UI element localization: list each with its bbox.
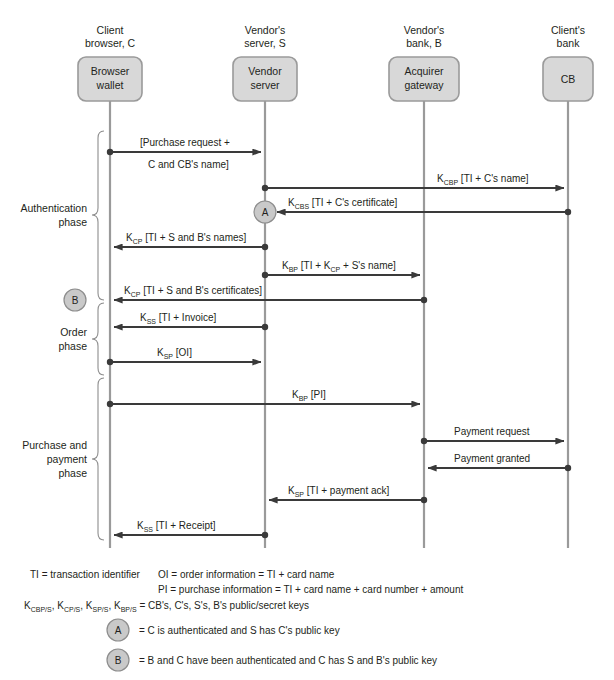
message-m7: KSS [TI + Invoice]	[114, 312, 268, 330]
message-m4: KCP [TI + S and B's names]	[114, 232, 268, 250]
actor-box-label-line2: wallet	[96, 79, 124, 91]
actor-header-line2: bank, B	[406, 37, 442, 49]
message-label: KCP [TI + S and B's certificates]	[124, 285, 262, 298]
message-label: KCP [TI + S and B's names]	[126, 232, 247, 245]
message-label: KBP [PI]	[292, 389, 326, 402]
sequence-diagram: Client browser, C Browser wallet Vendor'…	[0, 0, 614, 680]
message-label: KSS [TI + Receipt]	[137, 520, 216, 533]
actor-header-line1: Vendor's	[245, 24, 286, 36]
actor-box-label-line2: gateway	[404, 79, 444, 91]
actor-box-label-line1: Vendor	[248, 65, 282, 77]
phase-brace	[92, 131, 104, 300]
message-m13: KSS [TI + Receipt]	[114, 520, 268, 538]
message-label: KSS [TI + Invoice]	[140, 312, 217, 325]
message-m6: KCP [TI + S and B's certificates]	[114, 285, 427, 303]
legend-marker-a-letter: A	[115, 625, 122, 636]
message-label: KSP [OI]	[157, 347, 192, 360]
message-label: KBP [TI + KCP + S's name]	[282, 260, 396, 273]
legend-marker-a-row: A = C is authenticated and S has C's pub…	[107, 619, 340, 641]
message-label: Payment granted	[454, 453, 530, 464]
state-marker-letter: B	[72, 295, 79, 306]
message-m8: KSP [OI]	[107, 347, 261, 365]
phase-authentication: Authentication phase	[20, 131, 104, 300]
message-m12: KSP [TI + payment ack]	[269, 485, 427, 503]
phase-order: Order phase	[58, 303, 104, 375]
message-label-below: C and CB's name]	[148, 159, 229, 170]
actor-header-line1: Client	[97, 24, 124, 36]
phase-brace	[92, 378, 104, 540]
message-label: KCBS [TI + C's certificate]	[288, 197, 398, 210]
message-label: KSP [TI + payment ack]	[288, 485, 390, 498]
actor-box-label-line2: server	[250, 79, 280, 91]
message-label: Payment request	[454, 426, 530, 437]
message-m11: Payment granted	[428, 453, 571, 471]
legend-marker-b-row: B = B and C have been authenticated and …	[107, 649, 437, 671]
phase-label-line2: payment	[47, 453, 87, 465]
phase-label-line1: Order	[60, 326, 87, 338]
actor-client: Client browser, C Browser wallet	[78, 24, 142, 548]
actor-header-line2: browser, C	[85, 37, 136, 49]
message-m2: KCBP [TI + C's name]	[262, 173, 564, 191]
actor-header-line2: server, S	[244, 37, 285, 49]
message-label: KCBP [TI + C's name]	[437, 173, 529, 186]
legend-oi: OI = order information = TI + card name	[158, 569, 335, 580]
state-marker-letter: A	[262, 207, 269, 218]
actor-header-line1: Client's	[551, 24, 585, 36]
message-label-above: [Purchase request +	[140, 137, 230, 148]
phase-label-line1: Authentication	[20, 202, 87, 214]
legend-marker-a-text: = C is authenticated and S has C's publi…	[139, 625, 340, 636]
message-m1: [Purchase request + C and CB's name]	[107, 137, 261, 170]
legend-pi: PI = purchase information = TI + card na…	[158, 584, 463, 595]
actor-box-label-line1: Acquirer	[404, 65, 444, 77]
state-marker-b[interactable]: B	[64, 289, 86, 311]
phase-label-line2: phase	[58, 216, 87, 228]
legend-ti: TI = transaction identifier	[30, 569, 140, 580]
message-m9: KBP [PI]	[107, 389, 420, 407]
phase-label-line1: Purchase and	[22, 439, 87, 451]
phase-purchase: Purchase and payment phase	[22, 378, 104, 540]
message-m10: Payment request	[421, 426, 564, 444]
state-marker-a[interactable]: A	[254, 201, 276, 223]
phase-label-line2: phase	[58, 340, 87, 352]
legend-marker-b-letter: B	[115, 655, 122, 666]
legend-keys: KCBP/S, KCP/S, KSP/S, KBP/S = CB's, C's,…	[24, 600, 309, 613]
actor-box-label-line1: Browser	[91, 65, 130, 77]
actor-header-line1: Vendor's	[404, 24, 445, 36]
actor-header-line2: bank	[557, 37, 581, 49]
message-m5: KBP [TI + KCP + S's name]	[262, 260, 420, 278]
actor-box-label-line1: CB	[561, 73, 576, 85]
actor-bank: Vendor's bank, B Acquirer gateway	[389, 24, 459, 548]
phase-brace	[92, 303, 104, 375]
phase-label-line3: phase	[58, 467, 87, 479]
legend: TI = transaction identifier OI = order i…	[24, 569, 463, 671]
legend-marker-b-text: = B and C have been authenticated and C …	[139, 655, 437, 666]
